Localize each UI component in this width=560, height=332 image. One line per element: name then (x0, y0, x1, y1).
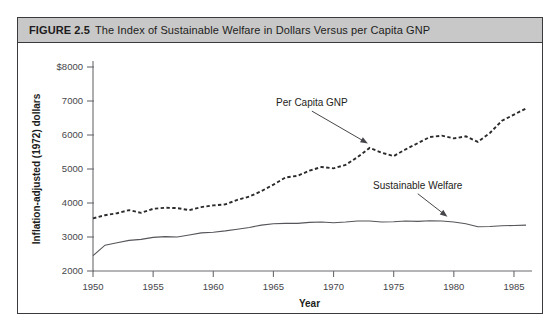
y-tick-label: 4000 (62, 197, 83, 208)
y-tick-label: 3000 (62, 231, 83, 242)
figure-caption: The Index of Sustainable Welfare in Doll… (95, 24, 430, 36)
y-axis-ticks: 200030004000500060007000$8000 (57, 61, 94, 276)
y-tick-label: $8000 (57, 61, 83, 72)
y-tick-label: 7000 (62, 95, 83, 106)
annotation-arrow (418, 194, 445, 215)
x-tick-label: 1985 (503, 281, 524, 292)
chart-plot-area: 200030004000500060007000$8000 1950195519… (18, 43, 542, 313)
x-tick-label: 1965 (263, 281, 284, 292)
figure-number: FIGURE 2.5 (29, 24, 90, 36)
figure-container: FIGURE 2.5 The Index of Sustainable Welf… (17, 17, 543, 314)
annotation-arrowhead (440, 210, 448, 217)
series-annotations: Per Capita GNPSustainable Welfare (276, 97, 463, 217)
x-tick-label: 1955 (143, 281, 164, 292)
annotation-label: Per Capita GNP (276, 97, 348, 108)
y-tick-label: 6000 (62, 129, 83, 140)
figure-caption-bar: FIGURE 2.5 The Index of Sustainable Welf… (18, 18, 542, 43)
series-sustainable-welfare (93, 221, 526, 256)
x-tick-label: 1950 (82, 281, 103, 292)
x-axis-title: Year (299, 298, 320, 309)
y-tick-label: 2000 (62, 265, 83, 276)
annotation-label: Sustainable Welfare (373, 180, 463, 191)
annotation-arrowhead (360, 137, 368, 143)
x-tick-label: 1960 (203, 281, 224, 292)
x-tick-label: 1975 (383, 281, 404, 292)
y-tick-label: 5000 (62, 163, 83, 174)
x-axis-ticks: 19501955196019651970197519801985 (82, 271, 524, 292)
y-axis-title: Inflation-adjusted (1972) dollars (31, 93, 42, 244)
x-tick-label: 1970 (323, 281, 344, 292)
x-tick-label: 1980 (443, 281, 464, 292)
series-per-capita-gnp (93, 108, 526, 218)
line-chart: 200030004000500060007000$8000 1950195519… (18, 43, 541, 313)
annotation-arrow (312, 111, 365, 141)
